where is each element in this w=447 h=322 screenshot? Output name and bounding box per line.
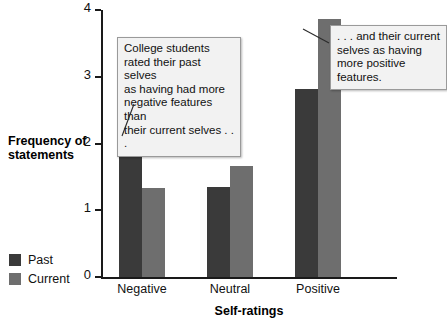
callout-past-line-5: their current selves . . . (124, 124, 234, 151)
legend-item-current: Current (9, 271, 70, 287)
y-tick-0: 0 (95, 276, 101, 278)
callout-past-line-3: as having had more (124, 83, 234, 97)
callout-past-selves: College students rated their past selves… (117, 37, 241, 157)
legend-swatch-past-icon (9, 254, 21, 266)
y-axis-line (101, 10, 103, 277)
y-tick-label-0: 0 (84, 267, 91, 283)
x-category-label-negative: Negative (96, 282, 188, 296)
bar-positive-past (295, 89, 318, 277)
callout-current-line-2: selves as having (337, 44, 440, 58)
bar-negative-current (142, 188, 165, 277)
callout-current-line-1: . . . and their current (337, 30, 440, 44)
legend-label-past: Past (28, 253, 53, 267)
y-tick-label-1: 1 (84, 200, 91, 216)
y-tick-1: 1 (95, 209, 101, 211)
legend-label-current: Current (28, 272, 70, 286)
bar-neutral-current (230, 166, 253, 277)
y-axis-title: Frequency of statements (8, 134, 94, 162)
x-axis-title: Self-ratings (101, 304, 397, 318)
callout-current-selves: . . . and their current selves as having… (330, 25, 447, 90)
callout-past-line-1: College students (124, 42, 234, 56)
legend-item-past: Past (9, 252, 70, 268)
bar-chart-figure: Frequency of statements Past Current 012… (0, 0, 447, 322)
y-tick-label-2: 2 (84, 134, 91, 150)
callout-past-line-2: rated their past selves (124, 56, 234, 83)
y-tick-label-3: 3 (84, 67, 91, 83)
bar-neutral-past (207, 187, 230, 277)
x-category-label-neutral: Neutral (184, 282, 276, 296)
x-category-label-positive: Positive (272, 282, 364, 296)
y-tick-2: 2 (95, 143, 101, 145)
x-axis-line (101, 277, 397, 279)
callout-current-line-3: more positive features. (337, 57, 440, 84)
y-tick-3: 3 (95, 76, 101, 78)
chart-legend: Past Current (9, 252, 70, 290)
y-tick-4: 4 (95, 9, 101, 11)
legend-swatch-current-icon (9, 273, 21, 285)
callout-past-line-4: negative features than (124, 96, 234, 123)
y-tick-label-4: 4 (84, 0, 91, 16)
